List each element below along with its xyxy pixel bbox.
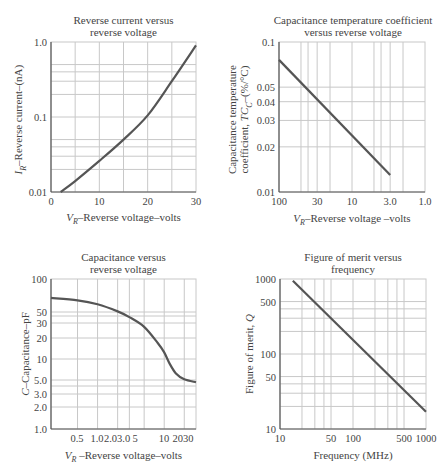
y-label-subscript: R xyxy=(19,166,28,171)
x-tick-label: 0.5 xyxy=(70,433,83,444)
x-tick-label: 10 xyxy=(94,196,105,207)
x-tick-label: 10 xyxy=(275,433,286,444)
y-tick-label: 10 xyxy=(37,354,48,365)
x-tick-label: 3.0 xyxy=(384,196,397,207)
y-axis-label-figure-of-merit: Figure of merit, Q xyxy=(243,279,255,429)
y-label-line-2: coefficient, TCC–(%/°C) xyxy=(238,45,255,195)
y-label-text: –Capacitance–pF xyxy=(19,312,31,388)
charts-canvas: 0.010.11.001020300.010.020.030.040.050.1… xyxy=(0,0,444,471)
chart-title-reverse-current: Reverse current versus reverse voltage xyxy=(51,14,196,38)
y-tick-label: 0.04 xyxy=(257,97,276,108)
y-tick-label: 30 xyxy=(37,318,48,329)
x-tick-label: 1.0 xyxy=(90,433,103,444)
y-label-line-1: Capacitance temperature xyxy=(226,45,238,195)
x-tick-label: 100 xyxy=(345,433,361,444)
x-tick-label: 10 xyxy=(159,433,170,444)
y-tick-label: 500 xyxy=(260,297,276,308)
x-tick-label: 50 xyxy=(326,433,337,444)
x-label-text: –Reverse voltage–volts xyxy=(78,211,181,223)
y-axis-label-temp-coefficient: Capacitance temperature coefficient, TCC… xyxy=(226,45,255,195)
x-axis-label-figure-of-merit: Frequency (MHz) xyxy=(280,449,426,461)
x-tick-label: 20 xyxy=(142,196,153,207)
y-label-subscript: C xyxy=(245,102,254,107)
x-tick-label: 5 xyxy=(132,433,137,444)
y-tick-label: 20 xyxy=(37,333,48,344)
x-tick-label: 1000 xyxy=(416,433,437,444)
x-label-text: –Reverse voltage–volts xyxy=(76,449,182,461)
y-axis-label-reverse-current: IR–Reverse current–(nA) xyxy=(12,45,29,195)
y-tick-label: 0.02 xyxy=(257,142,275,153)
y-tick-label: 0.1 xyxy=(262,37,275,48)
y-tick-label: 50 xyxy=(266,372,277,383)
title-line-2: reverse voltage xyxy=(51,263,196,275)
x-tick-label: 500 xyxy=(396,433,412,444)
title-line-1: Capacitance temperature coefficient xyxy=(262,14,444,26)
data-curve xyxy=(61,45,196,192)
data-curve xyxy=(51,298,196,382)
y-tick-label: 5.0 xyxy=(34,375,47,386)
y-label-symbol: TC xyxy=(238,108,250,121)
y-label-symbol: I xyxy=(12,171,24,175)
title-line-1: Figure of merit versus xyxy=(280,251,426,263)
figure: 0.010.11.001020300.010.020.030.040.050.1… xyxy=(0,0,444,471)
title-line-1: Reverse current versus xyxy=(51,14,196,26)
y-label-prefix: coefficient, xyxy=(238,121,250,173)
y-label-text: –Reverse current–(nA) xyxy=(12,65,24,166)
x-tick-label: 0 xyxy=(48,196,53,207)
title-line-2: versus reverse voltage xyxy=(262,26,444,38)
chart-title-capacitance: Capacitance versus reverse voltage xyxy=(51,251,196,275)
chart-temp-coefficient: 0.010.020.030.040.050.110030103.01.0 xyxy=(257,37,432,207)
y-label-text: Figure of merit, xyxy=(243,322,255,394)
y-tick-label: 0.03 xyxy=(257,115,275,126)
x-tick-label: 1.0 xyxy=(418,196,431,207)
y-label-text: –(%/°C) xyxy=(238,66,250,103)
x-tick-label: 30 xyxy=(312,196,323,207)
y-tick-label: 1.0 xyxy=(34,37,47,48)
y-tick-label: 0.01 xyxy=(29,187,47,198)
y-tick-label: 1000 xyxy=(255,274,276,285)
y-label-symbol: C xyxy=(19,389,31,396)
chart-capacitance: 1.02.03.05.0102030501000.51.02.03.051020… xyxy=(31,274,196,444)
y-tick-label: 2.0 xyxy=(34,402,47,413)
x-axis-label-temp-coefficient: VR–Reverse voltage –volts xyxy=(279,212,425,227)
y-tick-label: 0.1 xyxy=(34,112,47,123)
x-axis-label-capacitance: VR –Reverse voltage–volts xyxy=(51,449,196,464)
x-tick-label: 100 xyxy=(271,196,287,207)
chart-reverse-current: 0.010.11.00102030 xyxy=(29,37,202,207)
data-line xyxy=(293,281,426,412)
y-tick-label: 0.05 xyxy=(257,82,275,93)
x-tick-label: 2.03.0 xyxy=(104,433,130,444)
title-line-2: reverse voltage xyxy=(51,26,196,38)
x-label-symbol: V xyxy=(66,211,73,223)
chart-title-temp-coefficient: Capacitance temperature coefficient vers… xyxy=(262,14,444,38)
title-line-2: frequency xyxy=(280,263,426,275)
chart-title-figure-of-merit: Figure of merit versus frequency xyxy=(280,251,426,275)
y-tick-label: 100 xyxy=(260,349,276,360)
y-tick-label: 3.0 xyxy=(34,389,47,400)
chart-figure-of-merit: 1050100500100010501005001000 xyxy=(255,274,437,444)
title-line-1: Capacitance versus xyxy=(51,251,196,263)
y-axis-label-capacitance: C–Capacitance–pF xyxy=(19,279,31,429)
y-tick-label: 100 xyxy=(31,274,47,285)
x-axis-label-reverse-current: VR–Reverse voltage–volts xyxy=(51,211,196,226)
y-tick-label: 1.0 xyxy=(34,424,47,435)
y-label-symbol: Q xyxy=(243,314,255,322)
x-label-symbol: V xyxy=(65,449,72,461)
x-label-text: –Reverse voltage –volts xyxy=(305,212,411,224)
x-label-text: Frequency (MHz) xyxy=(313,449,392,461)
y-tick-label: 50 xyxy=(37,307,48,318)
x-tick-label: 10 xyxy=(347,196,358,207)
x-tick-label: 2030 xyxy=(173,433,194,444)
x-tick-label: 30 xyxy=(191,196,202,207)
